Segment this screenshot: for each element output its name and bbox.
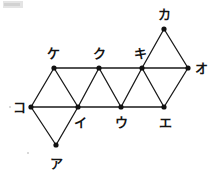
edge-ki-u <box>121 68 142 107</box>
vertex-point-ki <box>139 65 144 70</box>
vertex-point-o <box>185 65 190 70</box>
vertex-label-o: オ <box>195 62 208 75</box>
scan-speck-0 <box>9 106 11 108</box>
vertex-point-a <box>53 142 58 147</box>
vertex-label-ki: キ <box>134 47 147 60</box>
vertex-point-ke <box>51 65 56 70</box>
vertex-point-u <box>118 104 123 109</box>
vertex-point-e <box>161 104 166 109</box>
triangle-strip-diagram <box>0 0 212 176</box>
edge-ku-u <box>99 68 121 107</box>
edge-ki-e <box>142 68 164 107</box>
vertex-label-ko: コ <box>13 101 26 114</box>
vertex-label-ku: ク <box>93 47 106 60</box>
vertex-label-i: イ <box>74 116 87 129</box>
vertex-label-ka: カ <box>158 8 171 21</box>
edge-ke-ko <box>31 68 54 107</box>
edge-ko-a <box>31 107 56 145</box>
scan-speck-1 <box>27 152 29 154</box>
edge-ku-i <box>78 68 99 107</box>
edge-ke-i <box>54 68 78 107</box>
vertex-point-ko <box>28 104 33 109</box>
vertex-point-ka <box>161 26 166 31</box>
edge-o-e <box>164 68 188 107</box>
vertex-point-ku <box>96 65 101 70</box>
vertex-label-a: ア <box>50 157 63 170</box>
edge-ka-o <box>164 29 188 68</box>
figure-root: アイウエオカキクケコ <box>0 0 212 176</box>
vertex-label-u: ウ <box>115 116 128 129</box>
vertex-label-ke: ケ <box>47 47 60 60</box>
vertex-point-i <box>75 104 80 109</box>
vertex-label-e: エ <box>159 116 172 129</box>
